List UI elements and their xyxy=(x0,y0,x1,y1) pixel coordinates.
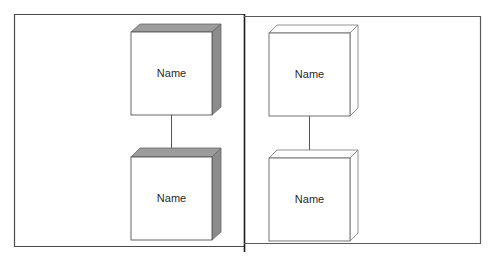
node-side-face xyxy=(212,24,221,115)
node-label: Name xyxy=(295,68,324,80)
node-top-face xyxy=(269,25,358,33)
deployment-diagram: Name Name Name Name xyxy=(0,0,495,260)
node-side-face xyxy=(350,150,358,241)
node-top-face xyxy=(131,148,221,157)
node-top-face xyxy=(269,150,358,158)
node-label: Name xyxy=(157,192,186,204)
node-top-face xyxy=(131,24,221,32)
node-side-face xyxy=(350,25,358,116)
node-outline-top[interactable]: Name xyxy=(269,25,358,116)
node-outline-bottom[interactable]: Name xyxy=(269,150,358,241)
node-side-face xyxy=(212,148,221,240)
node-label: Name xyxy=(295,193,324,205)
node-label: Name xyxy=(157,67,186,79)
node-shaded-top[interactable]: Name xyxy=(131,24,221,115)
node-shaded-bottom[interactable]: Name xyxy=(131,148,221,240)
